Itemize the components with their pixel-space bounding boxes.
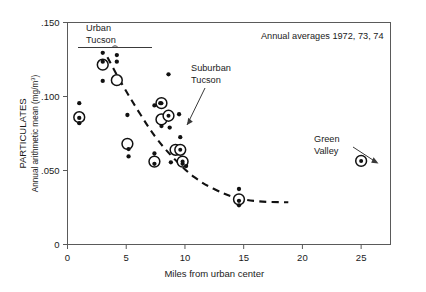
green-valley-label-line2: Valley [314, 146, 339, 156]
x-axis-tick-label: 25 [356, 252, 367, 263]
data-point-mean-open [111, 75, 122, 86]
y-axis-tick-label: .150 [41, 17, 60, 28]
data-point-annual [178, 135, 182, 139]
x-axis-tick-label: 15 [238, 252, 249, 263]
y-axis-tick-label: .050 [41, 165, 60, 176]
data-point-annual [101, 60, 105, 64]
particulates-scatter-chart: .150.100.05000510152025Miles from urban … [0, 0, 426, 292]
data-point-annual [77, 101, 81, 105]
data-point-annual [126, 154, 130, 158]
data-point-annual [184, 164, 188, 168]
x-axis-tick-label: 20 [297, 252, 308, 263]
data-point-annual [237, 187, 241, 191]
data-point-annual [177, 112, 181, 116]
data-point-annual [125, 113, 129, 117]
data-point-annual [115, 53, 119, 57]
green-valley-label-line1: Green [314, 134, 340, 144]
y-axis-tick-label: 0 [54, 239, 59, 250]
data-point-annual [159, 124, 163, 128]
urban-tucson-label-line2: Tucson [86, 35, 116, 45]
figure-container: .150.100.05000510152025Miles from urban … [0, 0, 426, 292]
data-point-annual [115, 60, 119, 64]
data-point-mean-dotted-center [178, 148, 182, 152]
data-point-annual [152, 162, 156, 166]
data-point-annual [101, 51, 105, 55]
green-valley-arrowhead [371, 157, 378, 163]
suburban-tucson-label-line2: Tucson [191, 75, 221, 85]
data-point-annual [237, 199, 241, 203]
y-axis-tick-label: .100 [41, 91, 60, 102]
data-point-annual [152, 103, 156, 107]
data-point-annual [158, 101, 162, 105]
data-point-annual [166, 72, 170, 76]
y-axis-title-sub: Annual arithmetic mean (mg/m3) [30, 75, 40, 193]
data-point-annual [152, 151, 156, 155]
y-axis-title-main: PARTICULATES [17, 98, 28, 168]
suburban-tucson-label-line1: Suburban [191, 63, 231, 73]
urban-tucson-label-line1: Urban [86, 23, 111, 33]
annual-averages-note: Annual averages 1972, 73, 74 [261, 31, 384, 41]
data-point-annual [77, 116, 81, 120]
data-point-mean-dotted-center [359, 159, 363, 163]
data-point-mean-dotted-center [167, 114, 171, 118]
data-point-annual [237, 203, 241, 207]
x-axis-title: Miles from urban center [164, 268, 264, 279]
data-point-annual [168, 125, 172, 129]
data-point-annual [126, 147, 130, 151]
x-axis-tick-label: 0 [65, 252, 70, 263]
data-point-annual [101, 79, 105, 83]
x-axis-tick-label: 10 [180, 252, 191, 263]
x-axis-tick-label: 5 [124, 252, 129, 263]
data-point-annual [77, 121, 81, 125]
data-point-annual [169, 160, 173, 164]
